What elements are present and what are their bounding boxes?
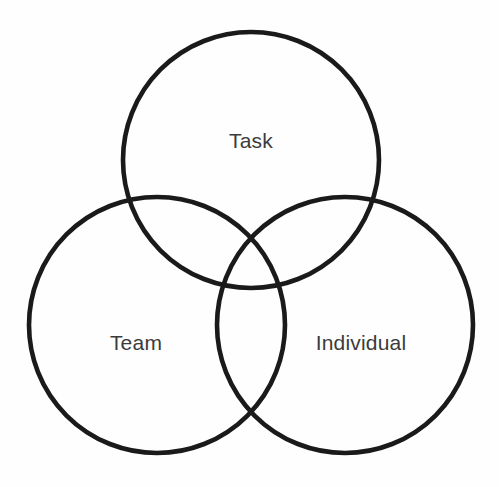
label-individual: Individual [316, 331, 407, 354]
circle-individual[interactable] [217, 197, 473, 453]
circle-task[interactable] [123, 32, 379, 288]
label-task: Task [229, 129, 273, 152]
label-team: Team [110, 331, 162, 354]
venn-diagram: Task Team Individual [0, 0, 499, 487]
venn-diagram-canvas: Task Team Individual [0, 0, 499, 487]
circle-team[interactable] [29, 197, 285, 453]
